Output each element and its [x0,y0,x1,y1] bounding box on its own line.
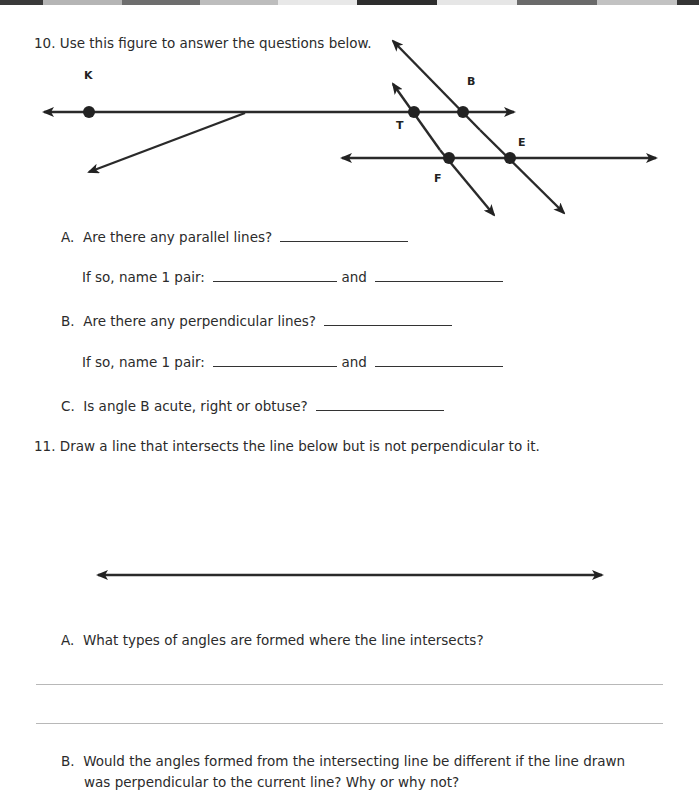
label-f: F [434,172,442,185]
q10a-pair-blank-2[interactable] [375,280,503,282]
q10b-pair-blank-2[interactable] [375,365,503,367]
q10c-question: C. Is angle B acute, right or obtuse? [61,398,444,414]
point-t [408,106,420,118]
q11-prompt-text: Draw a line that intersects the line bel… [60,438,540,454]
q11a-answer-line-2[interactable] [36,723,663,724]
point-f [443,152,455,164]
q11b-question-line2: was perpendicular to the current line? W… [84,774,459,790]
ray-down-left [89,113,245,172]
q10a-question: A. Are there any parallel lines? [61,229,408,245]
label-e: E [518,136,526,149]
q10a-followup: If so, name 1 pair: and [82,269,503,285]
q11a-question: A. What types of angles are formed where… [61,632,484,648]
q10a-answer-blank[interactable] [280,240,408,242]
point-e [504,152,516,164]
q11-number: 11. [34,438,55,454]
point-k [83,106,95,118]
q10b-followup: If so, name 1 pair: and [82,354,503,370]
q11b-question: B. Would the angles formed from the inte… [61,753,625,769]
point-b [457,106,469,118]
q11a-answer-line-1[interactable] [36,684,663,685]
q10b-pair-blank-1[interactable] [213,365,337,367]
q10b-question: B. Are there any perpendicular lines? [61,313,452,329]
q10c-answer-blank[interactable] [316,409,444,411]
q10a-pair-blank-1[interactable] [213,280,337,282]
label-b: B [467,75,475,88]
label-t: T [396,119,404,132]
q10b-answer-blank[interactable] [324,324,452,326]
label-k: K [84,69,93,82]
q11-prompt: 11. Draw a line that intersects the line… [34,438,540,454]
